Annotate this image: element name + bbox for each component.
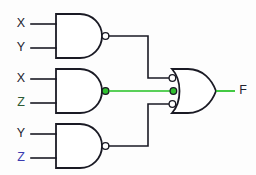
nand-3-body — [56, 124, 102, 168]
schematic-canvas: X Y X Z Y Z F — [0, 0, 256, 175]
input-label-z3: Z — [17, 150, 25, 164]
logic-circuit-diagram: X Y X Z Y Z F — [0, 0, 256, 175]
gate-or-out[interactable] — [169, 69, 216, 113]
or-input-3-bubble — [169, 101, 176, 108]
input-label-x1: X — [17, 16, 26, 30]
net-nand3-to-or-wire — [109, 104, 169, 146]
or-input-2-bubble — [170, 88, 177, 95]
input-label-y3: Y — [17, 126, 26, 140]
nand-3-output-bubble — [102, 143, 109, 150]
nand-2-output-bubble — [102, 88, 109, 95]
nand-1-body — [56, 14, 102, 58]
net-nand1-to-or-wire — [109, 36, 169, 78]
nand-1-output-bubble — [102, 33, 109, 40]
input-label-z2: Z — [17, 95, 25, 109]
input-label-y1: Y — [17, 40, 26, 54]
or-input-1-bubble — [169, 75, 176, 82]
input-label-x2: X — [17, 71, 26, 85]
gate-nand-2[interactable] — [31, 69, 109, 113]
gate-nand-1[interactable] — [31, 14, 109, 58]
gate-nand-3[interactable] — [31, 124, 109, 168]
or-gate-body — [172, 69, 216, 113]
output-label-f: F — [239, 83, 247, 97]
nand-2-body — [56, 69, 102, 113]
